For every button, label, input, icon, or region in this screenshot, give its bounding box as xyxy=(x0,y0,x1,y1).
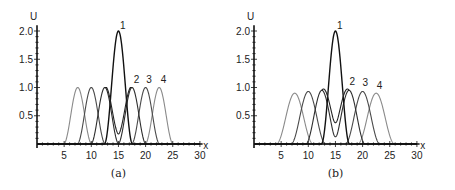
curve-3 xyxy=(37,88,200,145)
x-tick-label: 10 xyxy=(86,150,98,161)
curve-label-4: 4 xyxy=(161,74,167,85)
y-tick-label: 0.5 xyxy=(236,110,250,121)
panel-b: 510152025300.51.01.52.0Ux1234(b) xyxy=(236,11,425,180)
y-tick-label: 1.5 xyxy=(236,54,250,65)
x-axis-label: x xyxy=(420,140,425,151)
curve-label-4: 4 xyxy=(377,80,383,91)
y-tick-label: 1.0 xyxy=(19,82,33,93)
y-axis-label: U xyxy=(247,11,254,22)
x-tick-label: 30 xyxy=(194,150,206,161)
curve-label-1: 1 xyxy=(120,20,126,31)
y-tick-label: 2.0 xyxy=(236,26,250,37)
x-tick-label: 5 xyxy=(278,150,284,161)
curve-3 xyxy=(254,91,417,144)
curve-1 xyxy=(37,31,200,144)
y-tick-label: 1.5 xyxy=(19,54,33,65)
curve-2 xyxy=(254,90,417,144)
y-axis-label: U xyxy=(30,11,37,22)
x-tick-label: 20 xyxy=(140,150,152,161)
x-tick-label: 25 xyxy=(384,150,396,161)
figure: 510152025300.51.01.52.0Ux1234(a)51015202… xyxy=(0,0,455,190)
x-tick-label: 15 xyxy=(113,150,125,161)
panel-caption: (a) xyxy=(111,167,126,180)
x-axis-label: x xyxy=(203,140,208,151)
curve-4 xyxy=(37,88,200,145)
x-tick-label: 5 xyxy=(61,150,67,161)
curve-label-2: 2 xyxy=(350,76,356,87)
x-tick-label: 25 xyxy=(167,150,179,161)
x-tick-label: 20 xyxy=(357,150,369,161)
curve-label-1: 1 xyxy=(337,20,343,31)
y-tick-label: 0.5 xyxy=(19,110,33,121)
x-tick-label: 15 xyxy=(330,150,342,161)
panel-a: 510152025300.51.01.52.0Ux1234(a) xyxy=(19,11,208,180)
curve-2 xyxy=(37,88,200,145)
x-tick-label: 30 xyxy=(411,150,423,161)
y-tick-label: 1.0 xyxy=(236,82,250,93)
curve-label-3: 3 xyxy=(363,77,369,88)
curve-1 xyxy=(254,31,417,144)
y-tick-label: 2.0 xyxy=(19,26,33,37)
curve-label-2: 2 xyxy=(134,74,140,85)
panel-caption: (b) xyxy=(328,167,344,180)
x-tick-label: 10 xyxy=(303,150,315,161)
curve-label-3: 3 xyxy=(146,74,152,85)
